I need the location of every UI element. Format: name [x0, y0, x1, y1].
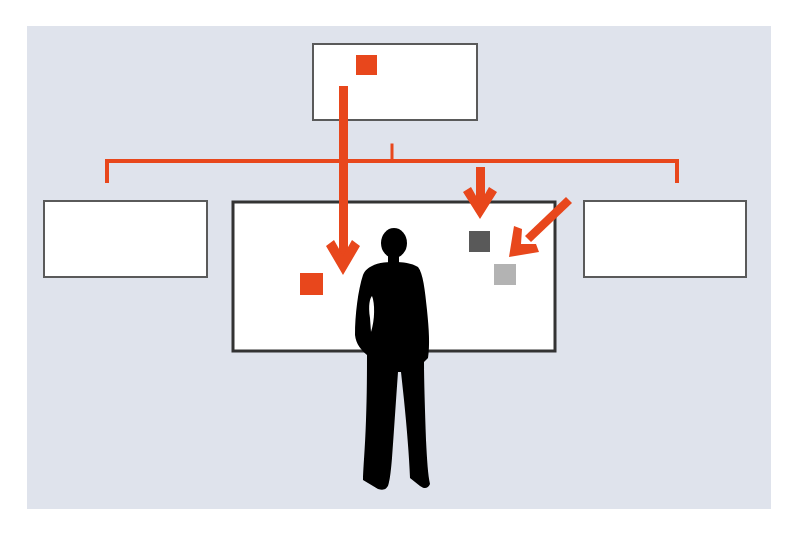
placed-item-light	[494, 264, 516, 285]
source-item-square	[356, 55, 377, 75]
placed-item-dark	[469, 231, 490, 252]
left-panel	[44, 201, 207, 277]
workflow-diagram	[0, 0, 801, 534]
right-panel	[584, 201, 746, 277]
top-source-panel	[313, 44, 477, 120]
placed-item-orange	[300, 273, 323, 295]
